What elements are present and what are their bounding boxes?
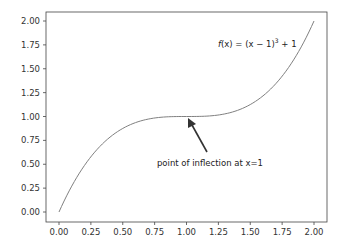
formula-label: f(x) = (x − 1)3 + 1 xyxy=(218,37,297,49)
y-tick-label: 0.50 xyxy=(21,159,40,169)
y-tick-label: 0.25 xyxy=(21,183,40,193)
x-tick-label: 0.50 xyxy=(113,227,132,237)
x-tick-label: 1.00 xyxy=(177,227,196,237)
y-tick-label: 1.25 xyxy=(21,88,40,98)
y-axis-ticks: 0.000.250.500.751.001.251.501.752.00 xyxy=(21,16,46,217)
y-tick-label: 0.00 xyxy=(21,207,40,217)
x-tick-label: 0.00 xyxy=(50,227,69,237)
x-tick-label: 0.75 xyxy=(145,227,164,237)
y-tick-label: 1.50 xyxy=(21,64,40,74)
inflection-label: point of inflection at x=1 xyxy=(157,158,263,168)
x-tick-label: 1.75 xyxy=(273,227,292,237)
x-tick-label: 1.50 xyxy=(241,227,260,237)
y-tick-label: 0.75 xyxy=(21,135,40,145)
chart: 0.000.250.500.751.001.251.501.752.00 0.0… xyxy=(0,0,345,251)
y-tick-label: 2.00 xyxy=(21,16,40,26)
x-axis-ticks: 0.000.250.500.751.001.251.501.752.00 xyxy=(50,222,324,237)
x-tick-label: 2.00 xyxy=(305,227,324,237)
x-tick-label: 1.25 xyxy=(209,227,228,237)
y-tick-label: 1.00 xyxy=(21,112,40,122)
x-tick-label: 0.25 xyxy=(81,227,100,237)
y-tick-label: 1.75 xyxy=(21,40,40,50)
